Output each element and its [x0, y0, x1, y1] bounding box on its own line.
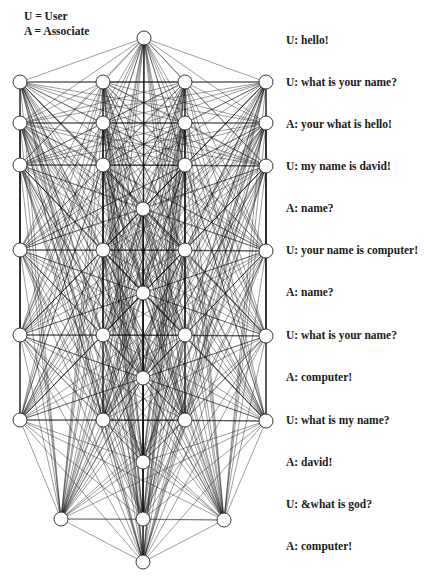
- graph-node: [136, 512, 150, 526]
- graph-node: [259, 244, 273, 258]
- associate-utterance: A: david!: [286, 456, 332, 468]
- graph-node: [178, 75, 192, 89]
- graph-node: [96, 75, 110, 89]
- graph-node: [137, 31, 151, 45]
- graph-node: [259, 329, 273, 343]
- user-utterance: U: hello!: [286, 34, 328, 46]
- graph-node: [217, 513, 231, 527]
- graph-node: [13, 243, 27, 257]
- graph-node: [13, 158, 27, 172]
- graph-node: [13, 116, 27, 130]
- graph-node: [13, 75, 27, 89]
- graph-edge: [224, 123, 266, 520]
- associate-utterance: A: computer!: [286, 540, 352, 552]
- graph-node: [178, 413, 192, 427]
- user-utterance: U: my name is david!: [286, 160, 391, 172]
- graph-node: [136, 202, 150, 216]
- user-utterance: U: your name is computer!: [286, 244, 418, 256]
- user-utterance: U: what is my name?: [286, 414, 390, 426]
- graph-node: [96, 413, 110, 427]
- user-utterance: U: &what is god?: [286, 498, 372, 510]
- user-utterance: U: what is your name?: [286, 329, 397, 341]
- legend-user: U = User: [24, 9, 89, 24]
- graph-node: [178, 243, 192, 257]
- graph-node: [178, 116, 192, 130]
- graph-node: [13, 328, 27, 342]
- dialog-transcript: U: hello!U: what is your name?A: your wh…: [286, 0, 424, 581]
- graph-node: [259, 414, 273, 428]
- legend: U = User A = Associate: [24, 9, 89, 39]
- graph-node: [136, 371, 150, 385]
- associate-utterance: A: computer!: [286, 371, 352, 383]
- graph-edge: [143, 421, 266, 519]
- graph-node: [136, 455, 150, 469]
- graph-node: [136, 286, 150, 300]
- graph-edge: [61, 519, 143, 562]
- legend-associate: A = Associate: [24, 24, 89, 39]
- graph-node: [259, 75, 273, 89]
- associate-utterance: A: name?: [286, 286, 334, 298]
- graph-edge: [20, 420, 61, 519]
- graph-node: [13, 413, 27, 427]
- graph-node: [96, 328, 110, 342]
- associate-utterance: A: name?: [286, 202, 334, 214]
- associate-utterance: A: your what is hello!: [286, 118, 392, 130]
- graph-edge: [143, 520, 224, 562]
- graph-edge: [20, 335, 143, 562]
- graph-node: [259, 116, 273, 130]
- graph-edge: [103, 38, 144, 82]
- graph-edge: [224, 421, 266, 520]
- graph-node: [136, 555, 150, 569]
- graph-edge: [20, 123, 143, 519]
- graph-node: [259, 159, 273, 173]
- user-utterance: U: what is your name?: [286, 76, 397, 88]
- graph-node: [178, 158, 192, 172]
- graph-node: [178, 328, 192, 342]
- graph-edge: [20, 38, 144, 82]
- graph-node: [54, 512, 68, 526]
- graph-node: [96, 158, 110, 172]
- graph-node: [96, 243, 110, 257]
- graph-node: [96, 116, 110, 130]
